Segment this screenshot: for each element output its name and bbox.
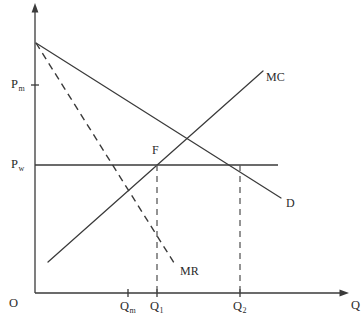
origin-label: O (9, 297, 18, 310)
axis-label-price-world: Pw (11, 158, 24, 171)
x-axis-label: Q (351, 299, 360, 312)
axis-label-qty-two: Q2 (233, 300, 247, 313)
axis-label-qty-monopoly: Qm (120, 300, 136, 313)
curve-label-mr: MR (180, 265, 199, 277)
curve-label-d: D (286, 197, 295, 209)
economics-diagram-figure: Pm Pw Qm Q1 Q2 O Q MC D MR F (0, 0, 364, 327)
curve-label-mc: MC (266, 71, 285, 83)
y-axis-arrowhead-icon (32, 3, 39, 13)
point-label-f: F (152, 144, 159, 156)
axis-label-qty-one: Q1 (150, 300, 164, 313)
axis-label-price-monopoly: Pm (11, 78, 25, 91)
demand-curve (36, 43, 281, 198)
x-axis-arrowhead-icon (340, 290, 350, 297)
